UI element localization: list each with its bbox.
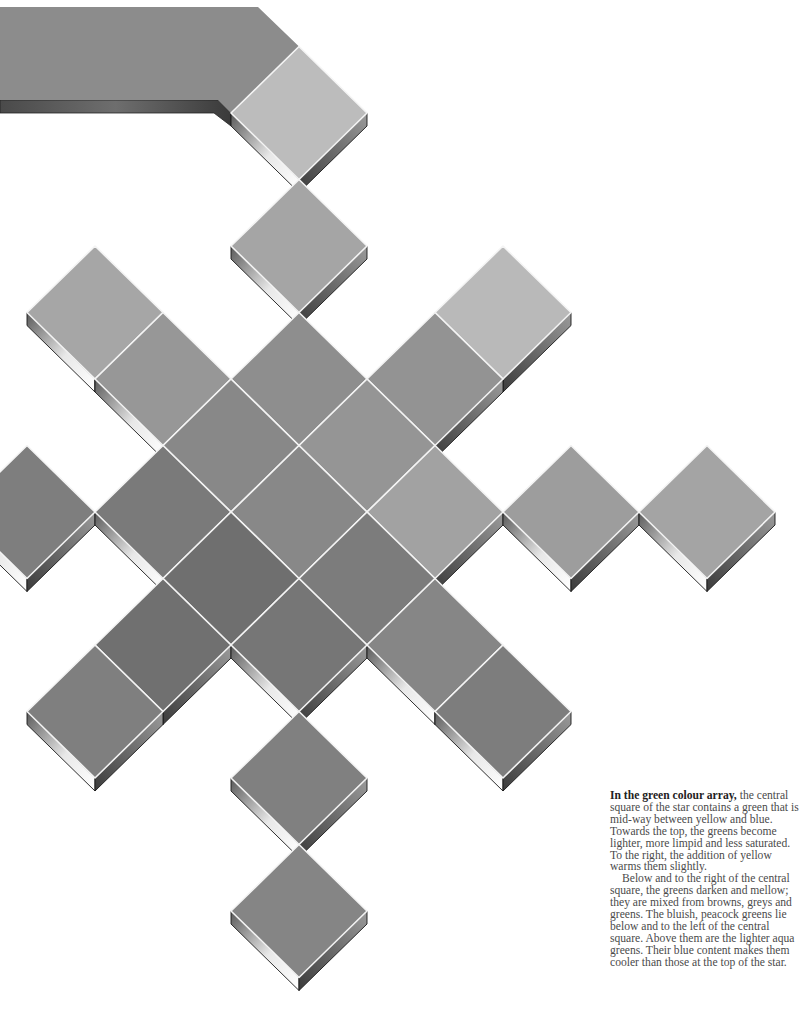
caption-body-1: the central square of the star contains …: [610, 789, 799, 873]
left-arm-outer: [0, 446, 95, 579]
right-arm-outer: [639, 446, 775, 579]
caption-paragraph-2: Below and to the right of the central sq…: [610, 873, 800, 968]
band-side: [0, 100, 231, 126]
bottom-tile-3: [231, 845, 367, 978]
bottom-tile-2: [231, 712, 367, 845]
caption-paragraph-1: In the green colour array, the central s…: [610, 790, 800, 873]
right-arm-mid: [503, 446, 639, 579]
top-tile-2: [231, 180, 367, 313]
caption: In the green colour array, the central s…: [610, 790, 800, 969]
